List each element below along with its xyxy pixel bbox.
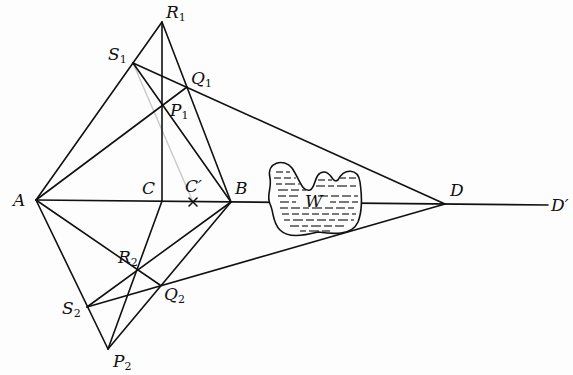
label-b: B	[235, 180, 248, 197]
label-p1: P1	[170, 102, 188, 121]
segment-a-r1	[36, 22, 162, 200]
segment-a-p2	[36, 200, 108, 349]
segment-s2-b	[87, 202, 231, 307]
segment-c-p2	[108, 201, 162, 349]
label-s2: S2	[62, 300, 81, 319]
label-c-prime: C′	[185, 178, 202, 195]
segment-a-q2	[36, 200, 160, 285]
construction-diagram: R1 S1 Q1 P1 A C C′ B W D D′ R2 Q2 S2 P2	[0, 0, 573, 375]
segment-a-q1	[36, 87, 187, 200]
diagram-lines	[0, 0, 573, 375]
label-s1: S1	[108, 46, 127, 65]
label-r1: R1	[166, 4, 186, 23]
label-q1: Q1	[191, 70, 212, 89]
segment-s2-d	[87, 204, 445, 307]
label-w: W	[305, 193, 322, 210]
label-a: A	[13, 192, 25, 209]
label-r2: R2	[118, 249, 138, 268]
label-c: C	[142, 180, 155, 197]
label-d: D	[450, 182, 464, 199]
label-q2: Q2	[164, 286, 185, 305]
segment-p2-b	[108, 202, 231, 349]
label-d-prime: D′	[551, 197, 569, 214]
label-p2: P2	[113, 353, 131, 372]
